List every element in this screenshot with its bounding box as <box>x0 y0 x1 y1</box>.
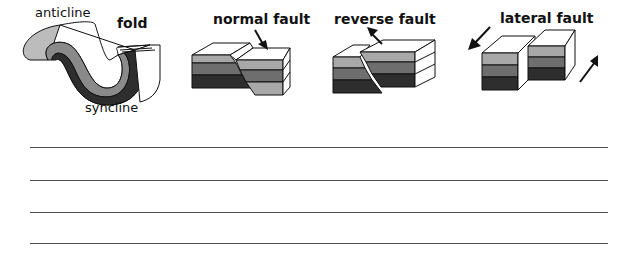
answer-line-2 <box>30 180 608 181</box>
lateral-fault-title: lateral fault <box>500 10 593 26</box>
answer-line-3 <box>30 212 608 213</box>
lateral-fault-svg <box>0 0 635 259</box>
answer-line-1 <box>30 147 608 148</box>
answer-line-4 <box>30 243 608 244</box>
